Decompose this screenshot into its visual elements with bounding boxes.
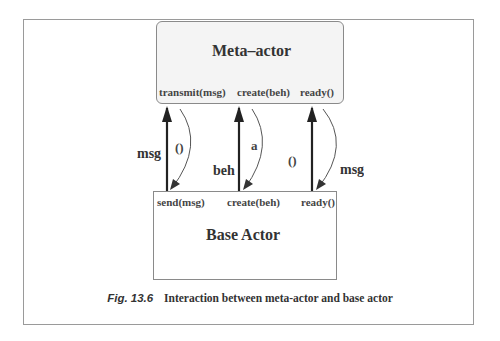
- figure-caption: Fig. 13.6 Interaction between meta-actor…: [0, 292, 500, 304]
- caption-text: Interaction between meta-actor and base …: [164, 292, 393, 304]
- label-down-ready: msg: [340, 163, 364, 178]
- label-down-ready-clip: msg: [340, 163, 364, 178]
- label-up-create: beh: [213, 163, 235, 179]
- arrow-up-ready: [307, 106, 317, 191]
- label-down-create: a: [251, 138, 258, 154]
- arrow-up-create: [234, 106, 244, 191]
- figure-number: Fig. 13.6: [107, 292, 153, 304]
- label-up-send: msg: [137, 146, 161, 162]
- label-down-send: (): [175, 140, 184, 156]
- arrow-up-send: [162, 106, 172, 191]
- interaction-arrows: [0, 0, 500, 341]
- label-up-ready: (): [288, 153, 297, 169]
- arrow-curve-ready: [316, 109, 336, 190]
